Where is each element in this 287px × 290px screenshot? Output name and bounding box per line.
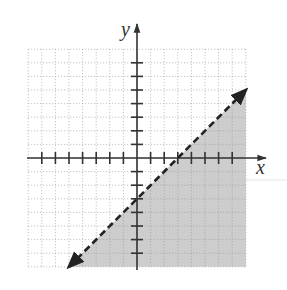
x-axis-label: x: [255, 156, 265, 178]
inequality-graph: y x: [0, 0, 287, 290]
y-axis-label: y: [119, 18, 130, 41]
